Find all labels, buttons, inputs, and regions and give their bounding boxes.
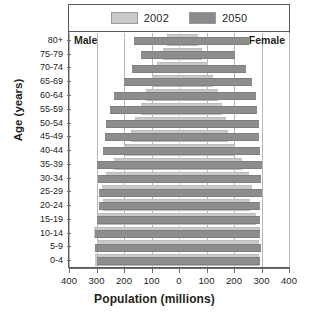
x-tick-mark	[262, 268, 263, 273]
bar-2050-30-34	[98, 175, 262, 183]
bar-2050-5-9	[95, 244, 261, 252]
gridline-right-400	[289, 33, 290, 267]
y-tick-mark	[67, 109, 71, 110]
bar-row	[69, 129, 289, 143]
y-axis-label: Age (years)	[12, 60, 24, 160]
bar-2050-45-49	[105, 133, 259, 141]
population-pyramid-figure: 2002 2050 Male Female 80+75-7970-7465-69…	[0, 0, 309, 315]
bar-2050-50-54	[106, 120, 259, 128]
x-tick-label: 100	[144, 275, 160, 286]
chart-legend: 2002 2050	[68, 4, 290, 32]
y-tick-mark	[67, 54, 71, 55]
bar-2050-60-64	[114, 92, 256, 100]
y-tick-mark	[67, 95, 71, 96]
x-tick-label: 400	[281, 275, 297, 286]
y-tick-label-20-24: 20-24	[40, 200, 63, 210]
x-tick-mark	[152, 268, 153, 273]
y-tick-mark	[67, 233, 71, 234]
bar-2050-0-4	[97, 257, 261, 265]
bar-row	[69, 157, 289, 171]
bar-2050-40-44	[103, 147, 260, 155]
x-tick-mark	[234, 268, 235, 273]
y-tick-label-70-74: 70-74	[40, 62, 63, 72]
bar-row	[69, 212, 289, 226]
bar-row	[69, 102, 289, 116]
y-tick-label-30-34: 30-34	[40, 173, 63, 183]
legend-swatch-2002	[111, 12, 138, 24]
bar-2050-70-74	[132, 65, 246, 73]
bar-row	[69, 184, 289, 198]
bar-2050-25-29	[99, 189, 261, 197]
y-tick-mark	[67, 260, 71, 261]
y-tick-label-25-29: 25-29	[40, 186, 63, 196]
y-tick-label-45-49: 45-49	[40, 131, 63, 141]
y-tick-mark	[67, 81, 71, 82]
x-tick-mark	[97, 268, 98, 273]
bar-row	[69, 171, 289, 185]
bar-rows	[69, 33, 289, 267]
y-tick-label-75-79: 75-79	[40, 49, 63, 59]
legend-entry-2050: 2050	[189, 12, 247, 24]
y-tick-mark	[67, 205, 71, 206]
bar-2050-35-39	[97, 161, 262, 169]
legend-swatch-2050	[189, 12, 216, 24]
y-tick-label-55-59: 55-59	[40, 104, 63, 114]
male-side-label: Male	[74, 34, 97, 46]
bar-row	[69, 198, 289, 212]
y-tick-label-15-19: 15-19	[40, 214, 63, 224]
y-tick-label-50-54: 50-54	[40, 118, 63, 128]
bar-row	[69, 88, 289, 102]
y-tick-mark	[67, 219, 71, 220]
bar-row	[69, 143, 289, 157]
bar-2050-75-79	[141, 51, 236, 59]
bar-row	[69, 239, 289, 253]
bar-row	[69, 116, 289, 130]
bar-row	[69, 253, 289, 267]
bar-row	[69, 226, 289, 240]
legend-entry-2002: 2002	[111, 12, 169, 24]
y-tick-mark	[67, 67, 71, 68]
bar-row	[69, 47, 289, 61]
x-tick-mark	[207, 268, 208, 273]
x-tick-label: 400	[61, 275, 77, 286]
bar-2050-10-14	[95, 230, 260, 238]
female-side-label: Female	[249, 34, 285, 46]
y-tick-label-5-9: 5-9	[50, 241, 63, 251]
bar-2050-55-59	[110, 106, 257, 114]
bar-2050-65-69	[124, 78, 252, 86]
x-tick-mark	[124, 268, 125, 273]
y-tick-label-40-44: 40-44	[40, 145, 63, 155]
x-tick-mark	[179, 268, 180, 273]
bar-2050-20-24	[99, 202, 260, 210]
y-tick-mark	[67, 136, 71, 137]
y-tick-label-80+: 80+	[48, 35, 63, 45]
y-tick-mark	[67, 123, 71, 124]
y-tick-mark	[67, 191, 71, 192]
x-tick-label: 100	[199, 275, 215, 286]
y-tick-label-35-39: 35-39	[40, 159, 63, 169]
y-tick-label-0-4: 0-4	[50, 255, 63, 265]
y-tick-mark	[67, 246, 71, 247]
x-tick-label: 200	[116, 275, 132, 286]
bar-2050-15-19	[97, 216, 261, 224]
y-tick-mark	[67, 40, 71, 41]
y-tick-label-60-64: 60-64	[40, 90, 63, 100]
bar-row	[69, 61, 289, 75]
legend-label-2050: 2050	[222, 12, 247, 24]
x-axis-label: Population (millions)	[0, 292, 309, 306]
x-tick-mark	[69, 268, 70, 273]
y-tick-mark	[67, 178, 71, 179]
y-tick-label-10-14: 10-14	[40, 228, 63, 238]
x-tick-mark	[289, 268, 290, 273]
y-tick-label-65-69: 65-69	[40, 76, 63, 86]
bar-row	[69, 74, 289, 88]
x-tick-label: 200	[226, 275, 242, 286]
y-tick-mark	[67, 164, 71, 165]
x-tick-label: 0	[176, 275, 181, 286]
legend-label-2002: 2002	[144, 12, 169, 24]
plot-area: Male Female	[69, 33, 289, 267]
y-tick-mark	[67, 150, 71, 151]
x-tick-label: 300	[89, 275, 105, 286]
x-tick-label: 300	[254, 275, 270, 286]
bar-2050-80+	[134, 37, 250, 45]
